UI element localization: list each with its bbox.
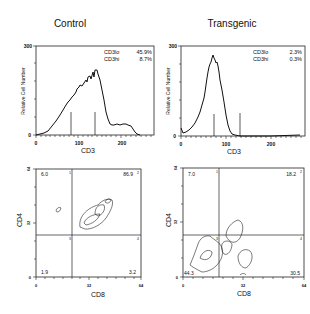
y-tick-300: 300	[24, 43, 33, 49]
x-tick-0: 0	[180, 141, 183, 147]
y-tick-32: 32	[173, 219, 178, 224]
cd3hi-label: CD3hi	[104, 56, 119, 62]
x-tick-0: 0	[182, 283, 185, 288]
x-tick-200: 200	[267, 141, 276, 147]
quadrant-marker-4: 4	[300, 237, 302, 241]
cd3hi-value: 8.7%	[139, 56, 152, 62]
y-tick-0: 0	[176, 275, 179, 280]
cd3hi-label: CD3hi	[253, 56, 268, 62]
cd3lo-label: CD3lo	[104, 49, 119, 55]
control-contour-plot: 6.0 86.9 1.9 3.2 1 2 3 4 0 32 64 0 32 64…	[16, 166, 144, 298]
quadrant-marker-1: 1	[216, 170, 218, 174]
cd3lo-value: 45.9%	[136, 49, 152, 55]
quadrant-marker-3: 3	[216, 237, 218, 241]
plot-frame	[183, 168, 304, 277]
contour-lines	[56, 199, 113, 229]
quadrant-marker-1: 1	[69, 171, 71, 175]
y-tick-64: 64	[26, 166, 31, 171]
x-tick-0: 0	[35, 140, 38, 146]
quadrant-marker-2: 2	[300, 170, 302, 174]
control-histogram: CD3lo 45.9% CD3hi 8.7% 300 0 0 100 200 C…	[20, 43, 154, 154]
x-axis-label: CD3	[81, 147, 95, 154]
y-tick-300: 300	[169, 43, 178, 49]
y-axis-label: CD4	[16, 213, 23, 227]
q3-percentage: 44.3	[184, 270, 194, 276]
q1-percentage: 7.0	[188, 171, 195, 177]
x-ticks	[33, 46, 151, 138]
x-tick-0: 0	[35, 283, 38, 288]
x-axis-label: CD8	[91, 291, 105, 298]
y-axis-label: Relative Cell Number	[165, 67, 171, 115]
x-tick-32: 32	[87, 283, 92, 288]
cd3lo-label: CD3lo	[253, 49, 268, 55]
quadrant-marker-3: 3	[69, 237, 71, 241]
y-tick-0: 0	[28, 132, 31, 138]
y-tick-0: 0	[173, 133, 176, 139]
plot-frame	[181, 46, 305, 136]
x-tick-64: 64	[302, 283, 307, 288]
cd3lo-value: 2.3%	[289, 49, 302, 55]
q4-percentage: 30.5	[290, 270, 300, 276]
x-tick-64: 64	[139, 283, 144, 288]
control-histogram-curve	[36, 70, 140, 135]
transgenic-histogram: CD3lo 2.3% CD3hi 0.3% 300 0 0 100 200 CD…	[165, 43, 305, 155]
contour-lines	[190, 220, 252, 275]
transgenic-histogram-curve	[181, 55, 300, 136]
q3-percentage: 1.9	[41, 269, 48, 275]
q4-percentage: 3.2	[129, 269, 136, 275]
q1-percentage: 6.0	[41, 171, 48, 177]
transgenic-contour-plot: 7.0 18.2 44.3 30.5 1 2 3 4 0 32 64 0 32 …	[165, 165, 307, 297]
y-axis-label: Relative Cell Number	[20, 67, 26, 115]
y-tick-0: 0	[29, 275, 32, 280]
quadrant-marker-2: 2	[137, 171, 139, 175]
x-tick-100: 100	[222, 141, 231, 147]
x-tick-32: 32	[241, 283, 246, 288]
figure-canvas: CD3lo 45.9% CD3hi 8.7% 300 0 0 100 200 C…	[0, 0, 310, 314]
y-axis-label: CD4	[165, 213, 172, 227]
plot-frame	[36, 169, 141, 277]
x-ticks	[178, 46, 301, 139]
y-tick-64: 64	[173, 165, 178, 170]
x-axis-label: CD3	[227, 148, 241, 155]
y-tick-32: 32	[26, 220, 31, 225]
x-tick-200: 200	[118, 140, 127, 146]
axis-ticks	[33, 169, 141, 280]
cd3hi-value: 0.3%	[289, 56, 302, 62]
x-tick-100: 100	[75, 140, 84, 146]
quadrant-marker-4: 4	[137, 237, 139, 241]
q2-percentage: 86.9	[123, 171, 133, 177]
x-axis-label: CD8	[237, 290, 251, 297]
q2-percentage: 18.2	[286, 171, 296, 177]
